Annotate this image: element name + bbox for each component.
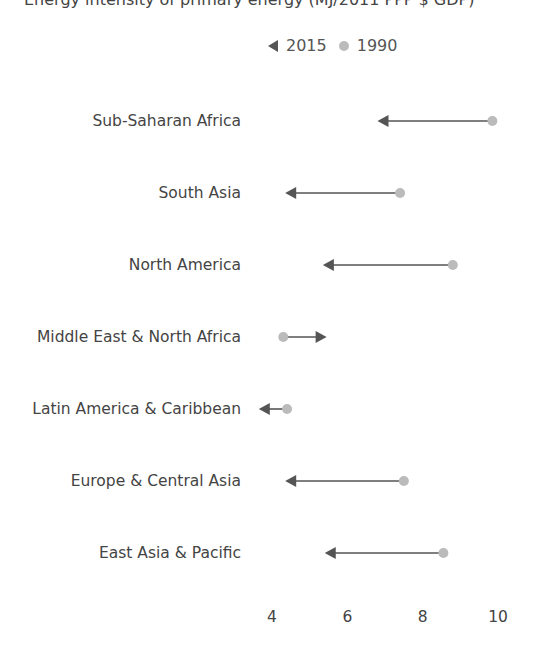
data-row bbox=[325, 547, 449, 559]
arrow-2015-icon bbox=[323, 259, 334, 271]
data-row bbox=[259, 403, 292, 415]
dot-1990-icon bbox=[282, 404, 292, 414]
data-row bbox=[377, 115, 497, 127]
dot-1990-icon bbox=[487, 116, 497, 126]
arrow-2015-icon bbox=[285, 187, 296, 199]
arrow-2015-icon bbox=[285, 475, 296, 487]
x-tick-label: 10 bbox=[488, 608, 508, 626]
x-tick-label: 8 bbox=[418, 608, 428, 626]
arrow-2015-icon bbox=[259, 403, 270, 415]
dot-1990-icon bbox=[399, 476, 409, 486]
x-tick-label: 4 bbox=[267, 608, 277, 626]
x-tick-label: 6 bbox=[342, 608, 352, 626]
dot-1990-icon bbox=[278, 332, 288, 342]
arrow-2015-icon bbox=[316, 331, 327, 343]
plot-area bbox=[0, 0, 541, 654]
data-row bbox=[285, 187, 405, 199]
dot-1990-icon bbox=[395, 188, 405, 198]
dot-1990-icon bbox=[448, 260, 458, 270]
data-row bbox=[323, 259, 458, 271]
arrow-2015-icon bbox=[325, 547, 336, 559]
dot-1990-icon bbox=[438, 548, 448, 558]
data-row bbox=[278, 331, 326, 343]
data-row bbox=[285, 475, 409, 487]
arrow-2015-icon bbox=[377, 115, 388, 127]
